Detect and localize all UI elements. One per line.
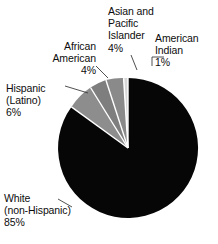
pie-chart-figure: Asian and Pacific Islander 4% American I… (0, 0, 218, 244)
leader-line-hispanic-latino (65, 86, 88, 93)
leader-line-african-american (96, 66, 108, 78)
leader-line-asian-pacific-islander (131, 55, 137, 70)
pie-label-hispanic-latino: Hispanic (Latino) 6% (6, 82, 45, 119)
pie-label-asian-pacific-islander: Asian and Pacific Islander 4% (108, 5, 154, 54)
pie-label-american-indian: American Indian 1% (155, 32, 199, 69)
pie-label-african-american: African American 4% (18, 40, 96, 77)
pie-label-white-non-hispanic: White (non-Hispanic) 85% (4, 192, 71, 229)
